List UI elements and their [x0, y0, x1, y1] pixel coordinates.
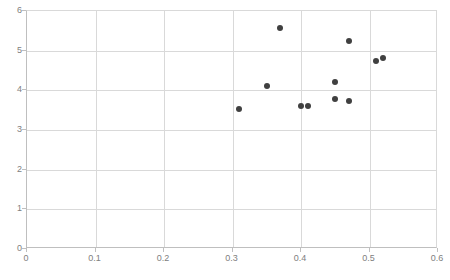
x-axis-tick-label: 0.6: [425, 253, 449, 263]
data-point[interactable]: [332, 79, 338, 85]
gridline-horizontal: [27, 90, 436, 91]
y-axis-tick-mark: [22, 129, 26, 130]
data-point[interactable]: [373, 58, 379, 64]
x-axis-tick-label: 0.5: [357, 253, 381, 263]
data-point[interactable]: [298, 103, 304, 109]
y-axis-tick-label: 1: [4, 203, 22, 213]
x-axis-tick-mark: [95, 248, 96, 252]
y-axis-tick-mark: [22, 10, 26, 11]
gridline-horizontal: [27, 51, 436, 52]
data-point[interactable]: [380, 55, 386, 61]
data-point[interactable]: [332, 96, 338, 102]
gridline-vertical: [301, 11, 302, 247]
y-axis-tick-mark: [22, 208, 26, 209]
x-axis-tick-mark: [369, 248, 370, 252]
gridline-horizontal: [27, 209, 436, 210]
y-axis-tick-label: 5: [4, 45, 22, 55]
y-axis-tick-label: 3: [4, 124, 22, 134]
data-point[interactable]: [264, 83, 270, 89]
data-point[interactable]: [346, 98, 352, 104]
x-axis-tick-label: 0.1: [83, 253, 107, 263]
y-axis-tick-label: 6: [4, 5, 22, 15]
x-axis-tick-mark: [437, 248, 438, 252]
gridline-vertical: [233, 11, 234, 247]
x-axis-tick-label: 0.3: [220, 253, 244, 263]
y-axis-tick-mark: [22, 89, 26, 90]
y-axis-tick-label: 4: [4, 84, 22, 94]
y-axis-tick-mark: [22, 50, 26, 51]
plot-area: [26, 10, 437, 248]
gridline-vertical: [96, 11, 97, 247]
scatter-chart: 012345600.10.20.30.40.50.6: [0, 0, 450, 280]
y-axis-tick-label: 0: [4, 243, 22, 253]
x-axis-tick-mark: [232, 248, 233, 252]
gridline-vertical: [370, 11, 371, 247]
data-point[interactable]: [346, 38, 352, 44]
data-point[interactable]: [305, 103, 311, 109]
x-axis-tick-label: 0.4: [288, 253, 312, 263]
x-axis-tick-mark: [163, 248, 164, 252]
data-point[interactable]: [277, 25, 283, 31]
gridline-horizontal: [27, 170, 436, 171]
gridline-horizontal: [27, 130, 436, 131]
x-axis-tick-mark: [300, 248, 301, 252]
x-axis-tick-label: 0.2: [151, 253, 175, 263]
x-axis-tick-label: 0: [14, 253, 38, 263]
data-point[interactable]: [236, 106, 242, 112]
gridline-vertical: [164, 11, 165, 247]
y-axis-tick-label: 2: [4, 164, 22, 174]
x-axis-tick-mark: [26, 248, 27, 252]
y-axis-tick-mark: [22, 169, 26, 170]
